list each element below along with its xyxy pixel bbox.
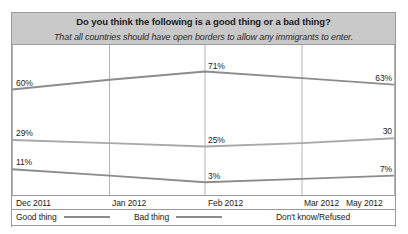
axis-tick-label: Jan 2012: [112, 198, 146, 208]
chart-title: Do you think the following is a good thi…: [12, 13, 395, 30]
legend-entry[interactable]: Don't know/Refused: [276, 212, 350, 222]
chart-subtitle: That all countries should have open bord…: [12, 30, 395, 44]
legend-swatch: [64, 216, 110, 219]
plot-area: 11%3%7%60%71%63%29%25%30: [12, 45, 395, 195]
data-point-label: 60%: [16, 78, 33, 88]
chart-header: Do you think the following is a good thi…: [12, 13, 395, 45]
frame-filler: [12, 226, 395, 234]
chart-container: Do you think the following is a good thi…: [11, 12, 396, 227]
data-point-label: 25%: [208, 135, 225, 145]
chart-legend: Good thingBad thingDon't know/Refused: [12, 210, 395, 226]
axis-tick-label: May 2012: [346, 198, 383, 208]
value-labels-layer: 11%3%7%60%71%63%29%25%30: [12, 45, 395, 195]
axis-tick-label: Feb 2012: [208, 198, 243, 208]
data-point-label: 11%: [16, 157, 33, 167]
axis-tick-label: Mar 2012: [304, 198, 339, 208]
value-labels: 11%3%7%60%71%63%29%25%30: [16, 61, 393, 182]
axis-tick-label: Dec 2011: [16, 198, 51, 208]
data-point-label: 71%: [208, 61, 225, 71]
legend-entry[interactable]: Bad thing: [134, 212, 222, 222]
legend-label: Don't know/Refused: [276, 212, 350, 222]
data-point-label: 3%: [208, 171, 221, 181]
x-axis: Dec 2011Jan 2012Feb 2012Mar 2012May 2012: [12, 195, 395, 210]
data-point-label: 29%: [16, 128, 33, 138]
legend-swatch: [176, 216, 222, 219]
legend-label: Bad thing: [134, 212, 169, 222]
data-point-label: 63%: [375, 73, 392, 83]
data-point-label: 7%: [380, 164, 393, 174]
legend-entry[interactable]: Good thing: [16, 212, 110, 222]
legend-label: Good thing: [16, 212, 57, 222]
data-point-label: 30: [383, 126, 393, 136]
